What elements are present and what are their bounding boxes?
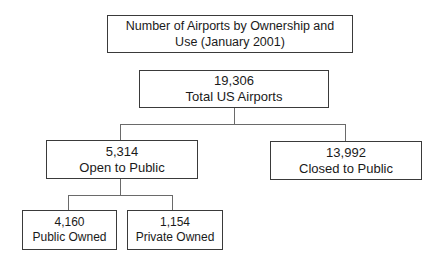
connector-open-down	[120, 179, 121, 196]
connector-level2-bar	[68, 195, 173, 196]
node-label: Open to Public	[79, 160, 164, 176]
node-label: Closed to Public	[299, 161, 393, 177]
node-value: 13,992	[326, 145, 366, 161]
title-line-1: Number of Airports by Ownership and	[126, 18, 334, 34]
node-label: Total US Airports	[186, 89, 283, 105]
node-value: 19,306	[214, 73, 254, 89]
connector-to-private-owned	[172, 195, 173, 210]
connector-to-public-owned	[68, 195, 69, 210]
node-value: 5,314	[106, 144, 139, 160]
node-total-us-airports: 19,306 Total US Airports	[139, 70, 329, 108]
connector-to-open	[120, 124, 121, 140]
node-closed-to-public: 13,992 Closed to Public	[270, 141, 422, 180]
node-open-to-public: 5,314 Open to Public	[46, 140, 198, 179]
node-value: 4,160	[54, 215, 84, 230]
node-private-owned: 1,154 Private Owned	[127, 210, 223, 250]
connector-level1-bar	[120, 124, 346, 125]
connector-to-closed	[345, 124, 346, 141]
node-value: 1,154	[160, 215, 190, 230]
node-public-owned: 4,160 Public Owned	[22, 210, 117, 250]
connector-root-down	[234, 108, 235, 125]
diagram-title-box: Number of Airports by Ownership and Use …	[107, 15, 353, 53]
title-line-2: Use (January 2001)	[175, 34, 285, 50]
node-label: Public Owned	[32, 230, 106, 245]
node-label: Private Owned	[136, 230, 215, 245]
